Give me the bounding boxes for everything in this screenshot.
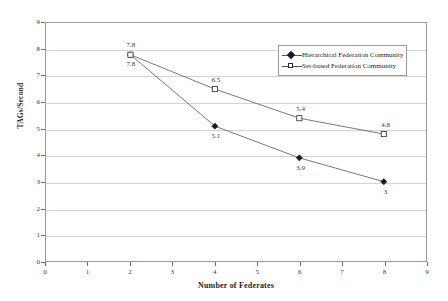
x-axis-tick-label: 5 — [245, 268, 269, 276]
data-point-marker-diamond — [296, 155, 302, 161]
x-axis-tick-mark — [45, 262, 46, 266]
y-axis-tick-label: 9 — [18, 18, 40, 26]
x-axis-tick-label: 9 — [415, 268, 439, 276]
x-axis-tick-mark — [130, 262, 131, 266]
x-axis-tick-label: 6 — [288, 268, 312, 276]
x-axis-tick-label: 8 — [373, 268, 397, 276]
legend-label-set-based: Set-based Federation Community — [302, 62, 396, 71]
y-axis-tick-label: 6 — [18, 98, 40, 106]
legend-marker-filled-diamond-icon — [282, 51, 302, 60]
y-axis-tick-label: 5 — [18, 125, 40, 133]
data-point-value-label: 3.9 — [296, 164, 305, 172]
plot-area: 7.85.13.937.86.55.44.8 Hierarchical Fede… — [45, 22, 427, 262]
data-point-marker-square — [297, 116, 302, 121]
x-axis-tick-label: 1 — [75, 268, 99, 276]
x-axis-tick-mark — [342, 262, 343, 266]
legend[interactable]: Hierarchical Federation Community Set-ba… — [278, 45, 407, 76]
data-point-marker-diamond — [381, 179, 387, 185]
y-axis-tick-label: 4 — [18, 151, 40, 159]
data-point-value-label: 3 — [384, 188, 388, 196]
data-point-marker-square — [128, 52, 133, 57]
data-point-value-label: 7.8 — [127, 60, 136, 68]
x-axis-tick-label: 0 — [33, 268, 57, 276]
data-point-value-label: 5.1 — [211, 132, 220, 140]
x-axis-tick-label: 7 — [330, 268, 354, 276]
x-axis-tick-mark — [427, 262, 428, 266]
y-axis-tick-label: 7 — [18, 71, 40, 79]
x-axis-tick-mark — [215, 262, 216, 266]
x-axis-tick-mark — [300, 262, 301, 266]
data-point-value-label: 4.8 — [381, 121, 390, 129]
x-axis-tick-label: 2 — [118, 268, 142, 276]
data-point-marker-square — [212, 87, 217, 92]
legend-marker-open-square-icon — [282, 62, 302, 71]
y-axis-tick-label: 8 — [18, 45, 40, 53]
y-axis-tick-label: 1 — [18, 231, 40, 239]
y-axis-tick-label: 2 — [18, 205, 40, 213]
x-axis-tick-mark — [257, 262, 258, 266]
data-point-value-label: 7.8 — [127, 41, 136, 49]
x-axis-tick-label: 3 — [160, 268, 184, 276]
x-axis-tick-label: 4 — [203, 268, 227, 276]
x-axis-tick-mark — [87, 262, 88, 266]
data-point-marker-square — [381, 131, 386, 136]
legend-label-hierarchical: Hierarchical Federation Community — [302, 51, 403, 60]
y-axis-tick-label: 3 — [18, 178, 40, 186]
legend-item-hierarchical[interactable]: Hierarchical Federation Community — [282, 50, 402, 60]
data-point-value-label: 5.4 — [296, 105, 305, 113]
data-point-value-label: 6.5 — [211, 76, 220, 84]
y-axis-tick-label: 0 — [18, 258, 40, 266]
x-axis-tick-mark — [172, 262, 173, 266]
x-axis-title: Number of Federates — [45, 281, 427, 290]
legend-item-set-based[interactable]: Set-based Federation Community — [282, 61, 402, 71]
line-chart: TAGs/Second 9876543210 7.85.13.937.86.55… — [0, 0, 448, 301]
x-axis-tick-mark — [385, 262, 386, 266]
